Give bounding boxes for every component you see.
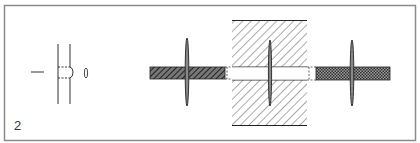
diagram-canvas	[0, 0, 420, 143]
left-bar-with-pin	[150, 38, 232, 106]
pin-icon	[185, 38, 189, 106]
right-bar-with-pin	[316, 40, 390, 106]
figure: 2	[0, 0, 420, 143]
pin-icon	[268, 40, 271, 106]
pin-icon	[350, 40, 354, 106]
schematic-symbol	[31, 44, 88, 104]
figure-number-label: 2	[14, 118, 21, 133]
pin-glyph-icon	[84, 68, 87, 78]
center-block-with-pin	[232, 20, 316, 126]
